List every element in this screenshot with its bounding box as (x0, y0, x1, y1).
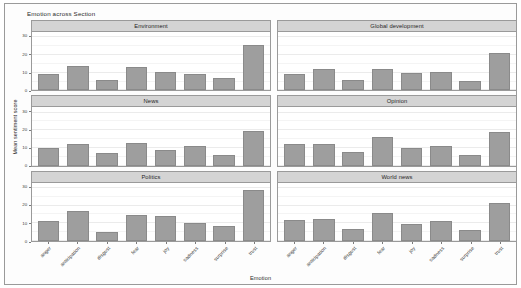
bar-anticipation (67, 144, 89, 166)
bar-trust (243, 190, 265, 241)
facet-strip-label: World news (277, 171, 517, 182)
bar-fear (372, 137, 394, 165)
bar-fear (372, 213, 394, 241)
x-tick-mark (382, 242, 383, 244)
facet-panel-politics: Politics (31, 171, 271, 242)
x-tick-anticipation: anticipation (66, 242, 88, 276)
bar-trust (489, 132, 511, 166)
bar-sadness (430, 221, 452, 241)
x-tick-trust: trust (243, 242, 265, 276)
bar-anger (38, 74, 60, 91)
y-tick-label: 20 (22, 202, 27, 207)
bar-anger (284, 220, 306, 241)
y-axis-ticks: 010203001020300102030 (5, 20, 31, 242)
x-tick-group: angeranticipationdisgustfearjoysadnesssu… (277, 242, 517, 276)
facet-strip-label: Global development (277, 20, 517, 31)
facet-strip-label: Politics (31, 171, 271, 182)
x-tick-joy: joy (155, 242, 177, 276)
x-tick-fear: fear (371, 242, 393, 276)
bar-sadness (184, 223, 206, 241)
facet-plot-area (277, 31, 517, 91)
x-tick-anticipation: anticipation (312, 242, 334, 276)
x-tick-group: angeranticipationdisgustfearjoysadnesssu… (31, 242, 271, 276)
bar-anticipation (67, 66, 89, 91)
bar-disgust (96, 80, 118, 91)
bar-disgust (342, 80, 364, 91)
bar-group (278, 107, 516, 165)
bar-trust (243, 131, 265, 165)
x-tick-label: disgust (95, 245, 111, 261)
x-tick-surprise: surprise (214, 242, 236, 276)
facet-plot-area (277, 106, 517, 166)
x-tick-disgust: disgust (96, 242, 118, 276)
x-tick-mark (77, 242, 78, 244)
bar-fear (126, 143, 148, 166)
bar-trust (243, 45, 265, 90)
bar-anger (38, 148, 60, 166)
bar-joy (401, 73, 423, 91)
bar-surprise (459, 81, 481, 91)
bar-joy (155, 216, 177, 241)
x-tick-label: anticipation (59, 245, 82, 268)
x-tick-sadness: sadness (430, 242, 452, 276)
x-tick-label: sadness (428, 245, 446, 263)
x-tick-label: surprise (458, 245, 475, 262)
x-tick-sadness: sadness (184, 242, 206, 276)
x-tick-label: fear (376, 245, 386, 255)
bar-anticipation (313, 144, 335, 165)
bar-trust (489, 203, 511, 241)
x-tick-label: anger (39, 245, 52, 258)
bar-joy (155, 150, 177, 166)
y-tick-label: 0 (25, 88, 27, 93)
y-tick-label: 30 (22, 109, 27, 114)
bar-disgust (342, 152, 364, 165)
x-tick-trust: trust (489, 242, 511, 276)
bar-surprise (459, 230, 481, 241)
bar-group (32, 32, 270, 90)
bar-sadness (430, 72, 452, 91)
bar-surprise (459, 155, 481, 166)
x-axis-title: Emotion (5, 275, 516, 281)
bar-anticipation (67, 211, 89, 241)
bar-sadness (430, 146, 452, 165)
bar-group (278, 183, 516, 241)
bar-disgust (96, 232, 118, 241)
x-tick-mark (294, 242, 295, 244)
x-tick-surprise: surprise (460, 242, 482, 276)
bar-group (278, 32, 516, 90)
y-tick-label: 0 (25, 163, 27, 168)
bar-fear (126, 67, 148, 90)
bar-trust (489, 53, 511, 90)
x-tick-label: trust (493, 245, 504, 256)
y-tick-label: 20 (22, 127, 27, 132)
x-tick-disgust: disgust (342, 242, 364, 276)
facet-strip-label: Opinion (277, 95, 517, 106)
bar-anger (38, 221, 60, 241)
x-tick-joy: joy (401, 242, 423, 276)
facet-panel-environment: Environment (31, 20, 271, 91)
x-tick-label: joy (161, 245, 170, 254)
y-tick-label: 10 (22, 221, 27, 226)
bar-fear (372, 69, 394, 90)
x-tick-label: joy (407, 245, 416, 254)
x-tick-label: sadness (182, 245, 200, 263)
bar-surprise (213, 78, 235, 90)
x-tick-mark (441, 242, 442, 244)
x-tick-label: disgust (341, 245, 357, 261)
x-tick-label: anticipation (305, 245, 328, 268)
chart-screenshot: Emotion across Section Mean sentiment sc… (0, 0, 521, 288)
facet-panel-world-news: World news (277, 171, 517, 242)
facet-grid: EnvironmentGlobal developmentNewsOpinion… (31, 20, 517, 242)
x-tick-label: anger (285, 245, 298, 258)
bar-joy (401, 224, 423, 241)
x-tick-anger: anger (37, 242, 59, 276)
facet-panel-opinion: Opinion (277, 95, 517, 166)
x-axis-ticks: angeranticipationdisgustfearjoysadnesssu… (31, 242, 517, 276)
bar-anger (284, 74, 306, 90)
y-tick-label: 10 (22, 70, 27, 75)
facet-plot-area (31, 106, 271, 166)
facet-strip-label: News (31, 95, 271, 106)
plot-frame: Emotion across Section Mean sentiment sc… (4, 3, 517, 285)
y-tick-label: 30 (22, 33, 27, 38)
x-tick-anger: anger (283, 242, 305, 276)
